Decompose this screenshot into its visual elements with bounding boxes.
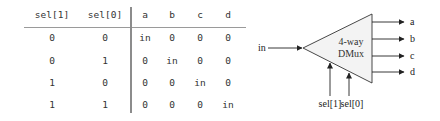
dmux-diagram: in 4-way DMux a b c d sel[1] sel[0] [0,0,440,121]
output-label-b: b [410,33,415,44]
output-label-a: a [410,16,415,27]
block-title-line1: 4-way [339,36,364,47]
sel0-label: sel[0] [341,98,364,109]
output-label-d: d [410,66,415,77]
sel1-label: sel[1] [319,98,342,109]
output-label-c: c [410,50,415,61]
input-label: in [258,42,266,53]
block-title-line2: DMux [338,48,364,59]
